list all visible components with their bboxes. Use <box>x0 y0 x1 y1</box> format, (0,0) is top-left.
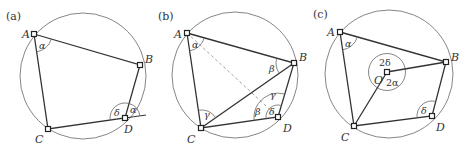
angle-label-delta: δ <box>269 106 275 117</box>
extension-cd-a <box>125 115 146 118</box>
panel-c-label: (c) <box>313 8 328 21</box>
angle-label-beta-at-b: β <box>268 63 275 74</box>
point-label-a: A <box>173 28 182 41</box>
angle-label-beta-at-d: β <box>254 106 261 117</box>
vertex-c <box>199 126 204 131</box>
angle-label-alpha: α <box>39 40 46 51</box>
point-label-a: A <box>21 28 30 41</box>
quadrilateral-a <box>34 34 140 129</box>
angle-label-gamma-at-d: γ <box>270 89 276 100</box>
panel-a: (a) α δ α A B D C <box>6 10 153 146</box>
vertex-o-center <box>385 70 390 75</box>
vertex-b <box>138 63 143 68</box>
angle-arc-b-beta <box>276 58 279 73</box>
vertex-d <box>430 114 435 119</box>
vertex-d <box>276 115 281 120</box>
angle-label-2alpha: 2α <box>386 77 399 88</box>
point-label-o: O <box>374 74 383 87</box>
point-label-c: C <box>35 133 44 146</box>
angle-label-gamma-at-c: γ <box>204 109 210 120</box>
point-label-b: B <box>144 53 153 66</box>
vertex-a <box>32 32 37 37</box>
point-label-b: B <box>450 51 459 64</box>
point-label-d: D <box>123 123 133 136</box>
panel-c: (c) α δ 2δ 2α O A B D C <box>313 8 459 144</box>
radius-ob <box>387 62 446 72</box>
point-label-c: C <box>187 133 196 146</box>
vertex-a <box>185 31 190 36</box>
cyclic-quadrilateral-figure: (a) α δ α A B D C (b) α <box>0 0 474 150</box>
vertex-b <box>444 60 449 65</box>
panel-b-label: (b) <box>158 10 174 23</box>
vertex-d <box>123 116 128 121</box>
angle-label-2delta: 2δ <box>379 57 391 68</box>
angle-label-delta: δ <box>114 107 120 118</box>
point-label-d: D <box>282 122 292 135</box>
point-label-a: A <box>326 26 335 39</box>
vertex-c <box>46 127 51 132</box>
point-label-d: D <box>435 121 445 134</box>
panel-b: (b) α β γ δ β γ A B D C <box>158 10 307 146</box>
panel-a-label: (a) <box>6 10 21 23</box>
angle-label-alpha: α <box>345 38 352 49</box>
angle-label-delta: δ <box>421 105 427 116</box>
angle-label-exterior-alpha: α <box>130 104 137 115</box>
vertex-c <box>352 124 357 129</box>
point-label-c: C <box>341 131 350 144</box>
vertex-b <box>292 61 297 66</box>
angle-label-alpha: α <box>192 39 199 50</box>
point-label-b: B <box>298 51 307 64</box>
vertex-a <box>338 30 343 35</box>
